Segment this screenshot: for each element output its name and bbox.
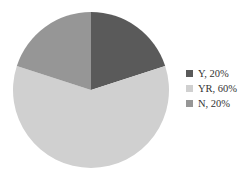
- legend-item-y: Y, 20%: [186, 66, 237, 81]
- legend-swatch-n: [186, 100, 193, 107]
- legend-label-yr: YR, 60%: [198, 83, 237, 94]
- legend-swatch-yr: [186, 85, 193, 92]
- legend-item-n: N, 20%: [186, 96, 237, 111]
- chart-legend: Y, 20% YR, 60% N, 20%: [186, 66, 237, 111]
- legend-label-y: Y, 20%: [198, 68, 229, 79]
- legend-item-yr: YR, 60%: [186, 81, 237, 96]
- legend-label-n: N, 20%: [198, 98, 230, 109]
- legend-swatch-y: [186, 70, 193, 77]
